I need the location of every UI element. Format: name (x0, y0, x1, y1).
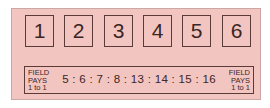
place-box-2[interactable]: 2 (64, 15, 93, 47)
place-box-label: 4 (152, 19, 164, 43)
field-bet-area[interactable]: FIELD PAYS 1 to 1 5 : 6 : 7 : 8 : 13 : 1… (24, 66, 254, 94)
place-box-6[interactable]: 6 (222, 15, 251, 47)
place-box-label: 3 (113, 19, 125, 43)
field-pays-label-right: FIELD PAYS 1 to 1 (229, 69, 250, 92)
field-label-line: 1 to 1 (28, 84, 49, 92)
place-box-3[interactable]: 3 (104, 15, 133, 47)
place-box-label: 6 (231, 19, 243, 43)
field-label-line: 1 to 1 (229, 84, 250, 92)
place-box-label: 5 (191, 19, 203, 43)
place-box-4[interactable]: 4 (143, 15, 172, 47)
place-box-5[interactable]: 5 (182, 15, 211, 47)
field-numbers: 5 : 6 : 7 : 8 : 13 : 14 : 15 : 16 (25, 73, 253, 85)
place-box-label: 1 (34, 19, 46, 43)
place-box-1[interactable]: 1 (25, 15, 54, 47)
betting-layout-panel: 1 2 3 4 5 6 FIELD PAYS 1 to 1 5 : 6 : 7 … (11, 8, 261, 100)
place-box-label: 2 (73, 19, 85, 43)
